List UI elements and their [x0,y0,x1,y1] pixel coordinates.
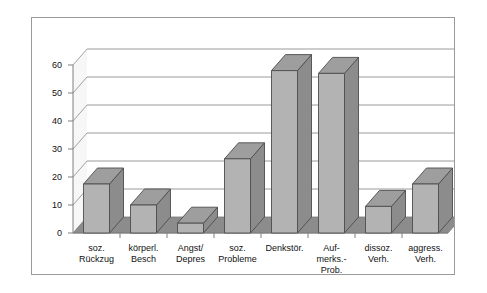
y-tick-label-50: 50 [34,88,62,98]
y-tick-label-10: 10 [34,200,62,210]
x-category-label-7: aggress. Verh. [402,243,449,265]
bar-4 [272,55,312,233]
x-category-label-5: Auf- merks.- Prob. [308,243,355,276]
x-category-label-6: dissoz. Verh. [355,243,402,265]
chart-frame: 60 50 40 30 20 10 0 soz. Rückzug körperl… [31,17,455,275]
bar-chart-plot [32,18,454,274]
bar-front-face [413,184,439,233]
x-category-label-3: soz. Probleme [214,243,261,265]
y-tick-label-30: 30 [34,144,62,154]
bar-5 [319,57,359,233]
x-category-label-4: Denkstör. [261,243,308,254]
bar-front-face [319,73,345,233]
chart-figure: 60 50 40 30 20 10 0 soz. Rückzug körperl… [0,0,487,293]
bar-front-face [366,206,392,233]
x-category-label-1: körperl. Besch [120,243,167,265]
x-category-label-2: Angst/ Depres [167,243,214,265]
y-tick-label-60: 60 [34,60,62,70]
bar-0 [84,168,124,233]
bar-front-face [131,205,157,233]
bar-front-face [225,159,251,233]
bar-front-face [272,71,298,233]
bar-7 [413,168,453,233]
y-tick-label-40: 40 [34,116,62,126]
y-axis [68,65,73,233]
bar-side-face [345,57,359,233]
x-axis [73,233,448,238]
x-category-label-0: soz. Rückzug [73,243,120,265]
y-tick-label-20: 20 [34,172,62,182]
y-tick-label-0: 0 [34,228,62,238]
bar-front-face [178,223,204,233]
bar-side-face [298,55,312,233]
bar-3 [225,143,265,233]
bar-front-face [84,184,110,233]
